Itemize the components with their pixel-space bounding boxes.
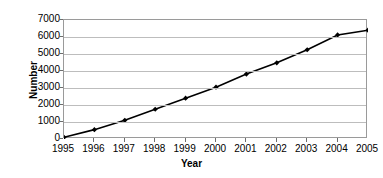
x-axis-tick-mark <box>124 138 125 142</box>
data-point-marker <box>92 127 97 132</box>
data-point-marker <box>153 107 158 112</box>
x-axis-tick-label: 2005 <box>347 143 383 155</box>
y-axis-tick-mark <box>59 19 63 20</box>
plot-area <box>63 19 367 138</box>
y-axis-tick-label: 3000 <box>38 82 60 92</box>
y-axis-tick-label: 7000 <box>38 14 60 24</box>
y-axis-tick-label: 5000 <box>38 48 60 58</box>
data-point-marker <box>183 96 188 101</box>
data-point-marker <box>274 60 279 65</box>
y-axis-tick-labels: 01000200030004000500060007000 <box>24 12 60 144</box>
y-axis-tick-mark <box>59 138 63 139</box>
gridline <box>64 88 366 89</box>
y-axis-tick-mark <box>59 53 63 54</box>
y-axis-tick-label: 6000 <box>38 31 60 41</box>
gridline <box>64 122 366 123</box>
y-axis-tick-label: 4000 <box>38 65 60 75</box>
gridline <box>64 54 366 55</box>
x-axis-tick-mark <box>306 138 307 142</box>
x-axis-tick-mark <box>93 138 94 142</box>
y-axis-tick-mark <box>59 70 63 71</box>
y-axis-tick-mark <box>59 121 63 122</box>
y-axis-tick-label: 2000 <box>38 99 60 109</box>
x-axis-tick-labels: 1995199619971998199920002001200220032004… <box>0 143 383 157</box>
x-axis-tick-mark <box>215 138 216 142</box>
y-axis-tick-mark <box>59 36 63 37</box>
gridline <box>64 37 366 38</box>
x-axis-tick-mark <box>276 138 277 142</box>
x-axis-tick-mark <box>154 138 155 142</box>
x-axis-tick-mark <box>185 138 186 142</box>
data-point-marker <box>365 28 368 33</box>
gridline <box>64 105 366 106</box>
y-axis-tick-mark <box>59 104 63 105</box>
y-axis-tick-mark <box>59 87 63 88</box>
line-chart: Number 01000200030004000500060007000 199… <box>0 0 383 178</box>
x-axis-tick-mark <box>337 138 338 142</box>
data-point-marker <box>305 47 310 52</box>
x-axis-title: Year <box>0 158 383 169</box>
x-axis-tick-mark <box>245 138 246 142</box>
gridline <box>64 71 366 72</box>
y-axis-tick-label: 1000 <box>38 116 60 126</box>
data-point-marker <box>244 71 249 76</box>
